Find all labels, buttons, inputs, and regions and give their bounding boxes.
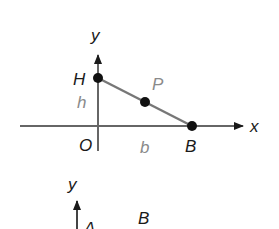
point-h (93, 73, 103, 83)
label-p-point: P (152, 75, 164, 94)
bottom-y-axis-label: y (67, 175, 78, 194)
label-h-point: H (73, 70, 86, 89)
label-height: h (77, 93, 86, 112)
diagram-canvas: y x H h P O b B y A B (0, 0, 279, 229)
point-b (187, 121, 197, 131)
top-figure: y x H h P O b B (20, 26, 259, 157)
label-origin: O (79, 136, 92, 155)
label-b-point: B (185, 137, 196, 156)
label-base: b (140, 138, 149, 157)
label-a-point: A (83, 219, 95, 229)
label-b-point-bottom: B (138, 209, 149, 228)
point-p (140, 97, 150, 107)
y-axis-label: y (90, 26, 101, 45)
x-axis-label: x (249, 117, 259, 136)
bottom-figure: y A B (67, 175, 149, 229)
